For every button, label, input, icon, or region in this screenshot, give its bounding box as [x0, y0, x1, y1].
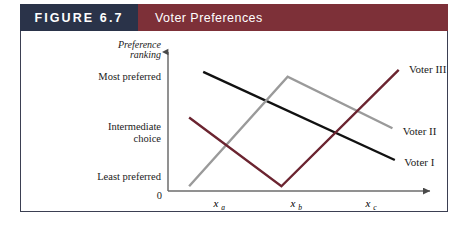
x-tick-label-xb-base: x [290, 197, 296, 209]
figure-header: FIGURE 6.7 Voter Preferences [20, 4, 448, 31]
y-tick-label-intermediate-line2: choice [134, 133, 162, 144]
x-tick-label-xb: x b [290, 197, 303, 212]
voter-preferences-chart: Preference ranking Most preferred Interm… [20, 31, 448, 212]
y-tick-label-least-preferred: Least preferred [97, 171, 162, 182]
chart-plot-area: Preference ranking Most preferred Interm… [20, 31, 448, 212]
series-label-voter-i: Voter I [404, 156, 434, 168]
x-tick-label-xc-base: x [365, 197, 371, 209]
x-tick-label-xa-sub: a [221, 203, 225, 212]
figure-title-block: Voter Preferences [138, 4, 448, 31]
chart-series-group [189, 70, 399, 186]
y-axis-label: Preference ranking [117, 39, 162, 60]
figure-number-label: FIGURE 6.7 [34, 11, 123, 25]
y-tick-label-intermediate-line1: Intermediate [108, 121, 161, 132]
x-tick-label-xc-sub: c [373, 203, 377, 212]
x-tick-label-xa: x a [213, 197, 226, 212]
series-line-voter-iii [189, 70, 399, 186]
x-tick-label-xb-sub: b [298, 203, 302, 212]
origin-label: 0 [157, 190, 162, 201]
x-tick-labels: x a x b x c [213, 197, 378, 212]
y-tick-labels: Most preferred Intermediate choice Least… [97, 71, 162, 182]
figure-number-block: FIGURE 6.7 [20, 4, 138, 31]
figure-root: FIGURE 6.7 Voter Preferences Pre [0, 0, 470, 238]
series-label-voter-ii: Voter II [403, 125, 437, 137]
y-tick-label-most-preferred: Most preferred [98, 71, 161, 82]
x-tick-label-xc: x c [365, 197, 378, 212]
y-axis-label-line2: ranking [130, 49, 161, 60]
figure-title-text: Voter Preferences [155, 11, 263, 25]
chart-series-labels: Voter III Voter II Voter I [403, 63, 447, 169]
x-tick-label-xa-base: x [213, 197, 219, 209]
series-label-voter-iii: Voter III [409, 63, 447, 75]
series-line-voter-ii [189, 77, 392, 187]
